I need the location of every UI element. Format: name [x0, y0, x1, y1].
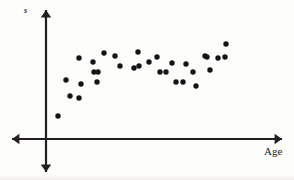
data-point — [163, 69, 168, 74]
y-axis-label: s — [24, 7, 27, 15]
data-point — [78, 81, 83, 86]
x-axis-arrow-left — [12, 134, 19, 144]
data-point — [117, 63, 122, 68]
data-point — [135, 49, 140, 54]
data-point — [101, 50, 106, 55]
plot-canvas — [0, 0, 294, 180]
data-point — [190, 69, 195, 74]
data-point — [90, 59, 95, 64]
data-point — [180, 79, 185, 84]
axes-group — [12, 10, 282, 172]
data-points-group — [55, 41, 228, 118]
data-point — [136, 63, 141, 68]
data-point — [112, 53, 117, 58]
data-point — [169, 60, 174, 65]
data-point — [193, 83, 198, 88]
y-axis-arrow-up — [41, 10, 51, 17]
data-point — [222, 54, 227, 59]
x-axis-arrow-right — [275, 134, 282, 144]
data-point — [76, 55, 81, 60]
data-point — [207, 67, 212, 72]
data-point — [55, 113, 60, 118]
scatter-plot-figure: s Age — [0, 0, 294, 180]
data-point — [204, 54, 209, 59]
data-point — [215, 55, 220, 60]
x-axis-label: Age — [264, 146, 282, 157]
data-point — [63, 77, 68, 82]
data-point — [131, 65, 136, 70]
data-point — [67, 93, 72, 98]
data-point — [223, 41, 228, 46]
data-point — [157, 69, 162, 74]
y-axis-arrow-down — [41, 165, 51, 172]
data-point — [146, 59, 151, 64]
data-point — [154, 54, 159, 59]
data-point — [94, 79, 99, 84]
data-point — [95, 69, 100, 74]
data-point — [183, 61, 188, 66]
data-point — [76, 95, 81, 100]
data-point — [173, 79, 178, 84]
